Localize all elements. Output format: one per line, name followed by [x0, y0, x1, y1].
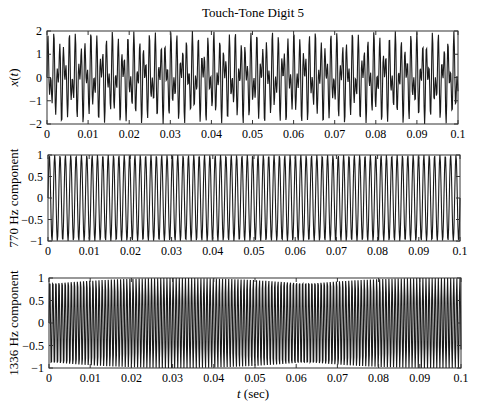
- figure-title: Touch-Tone Digit 5: [202, 5, 304, 20]
- x-tick-label: 0.08: [365, 127, 386, 141]
- x-tick-label: 0.02: [120, 244, 141, 258]
- x-tick-label: 0.1: [453, 244, 468, 258]
- y-tick-label: 1: [37, 148, 43, 162]
- x-axis-label-unit: (sec): [241, 386, 270, 401]
- x-tick-label: 0.04: [203, 371, 224, 385]
- x-tick-label: 0.03: [162, 371, 183, 385]
- x-tick-label: 0.08: [368, 371, 389, 385]
- y-tick-label: 1: [38, 271, 44, 285]
- x-tick-label: 0.1: [454, 371, 469, 385]
- x-tick-label: 0.03: [160, 127, 181, 141]
- y-tick-label: −1: [31, 361, 44, 375]
- x-tick-label: 0.06: [286, 371, 307, 385]
- x-axis-label: t (sec): [237, 386, 269, 401]
- x-tick-label: 0.1: [451, 127, 466, 141]
- x-tick-label: 0.02: [119, 127, 140, 141]
- waveform-line: [48, 155, 460, 241]
- x-tick-label: 0: [44, 127, 50, 141]
- x-tick-label: 0.02: [121, 371, 142, 385]
- y-tick-label: 2: [36, 24, 42, 38]
- y-tick-label: 0: [36, 71, 42, 85]
- x-tick-label: 0.04: [201, 127, 222, 141]
- waveform-line: [47, 31, 458, 124]
- x-tick-label: 0.04: [202, 244, 223, 258]
- x-tick-label: 0.06: [283, 127, 304, 141]
- x-tick-label: 0.05: [242, 127, 263, 141]
- x-tick-label: 0.05: [245, 371, 266, 385]
- y-tick-label: 0.5: [28, 170, 43, 184]
- x-tick-label: 0.08: [367, 244, 388, 258]
- x-tick-label: 0: [45, 244, 51, 258]
- plot-1336hz-component: 00.010.020.030.040.050.060.070.080.090.1…: [6, 270, 469, 385]
- x-tick-label: 0: [46, 371, 52, 385]
- y-tick-label: −1: [29, 94, 42, 108]
- y-tick-label: 0: [38, 316, 44, 330]
- x-tick-label: 0.09: [408, 244, 429, 258]
- y-tick-label: −0.5: [22, 339, 44, 353]
- x-tick-label: 0.07: [326, 244, 347, 258]
- x-tick-label: 0.07: [324, 127, 345, 141]
- y-tick-label: 0.5: [29, 294, 44, 308]
- y-tick-label: −1: [30, 234, 43, 248]
- waveform-line: [49, 278, 461, 368]
- x-tick-label: 0.03: [161, 244, 182, 258]
- y-axis-label: 1336 Hz component: [6, 270, 21, 376]
- x-tick-label: 0.07: [327, 371, 348, 385]
- plot-770hz-component: 00.010.020.030.040.050.060.070.080.090.1…: [6, 148, 468, 258]
- x-tick-label: 0.06: [285, 244, 306, 258]
- x-tick-label: 0.01: [78, 127, 99, 141]
- plot-x-t: 00.010.020.030.040.050.060.070.080.090.1…: [6, 24, 466, 141]
- x-tick-label: 0.01: [79, 244, 100, 258]
- y-tick-label: 0: [37, 191, 43, 205]
- y-axis-label: x(t): [6, 68, 21, 87]
- x-tick-label: 0.01: [80, 371, 101, 385]
- y-tick-label: 1: [36, 47, 42, 61]
- x-tick-label: 0.09: [409, 371, 430, 385]
- y-axis-label: 770 Hz component: [6, 148, 21, 247]
- x-tick-label: 0.05: [244, 244, 265, 258]
- y-tick-label: −2: [29, 117, 42, 131]
- figure: Touch-Tone Digit 5 00.010.020.030.040.05…: [0, 0, 479, 411]
- x-tick-label: 0.09: [406, 127, 427, 141]
- y-tick-label: −0.5: [21, 213, 43, 227]
